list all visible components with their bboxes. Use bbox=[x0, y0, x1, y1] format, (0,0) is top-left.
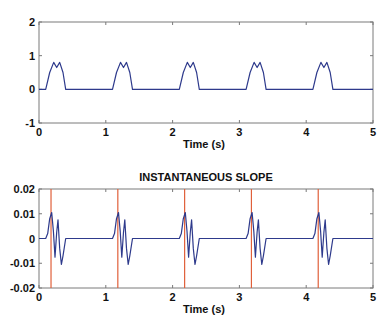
x-tick-label: 2 bbox=[170, 291, 176, 303]
x-tick-label: 5 bbox=[370, 126, 376, 138]
top-signal-plot: 012345-1012Time (s) bbox=[25, 16, 376, 150]
axes-frame bbox=[39, 22, 373, 123]
x-tick-label: 2 bbox=[170, 126, 176, 138]
y-tick-label: 2 bbox=[29, 16, 35, 28]
y-tick-label: 0 bbox=[29, 233, 35, 245]
instantaneous-slope-plot: 012345-0.02-0.0100.010.02Time (s)INSTANT… bbox=[10, 171, 376, 315]
x-tick-label: 3 bbox=[236, 126, 242, 138]
y-tick-label: -0.01 bbox=[10, 257, 35, 269]
y-tick-label: 1 bbox=[29, 50, 35, 62]
x-tick-label: 1 bbox=[103, 126, 109, 138]
y-tick-label: -1 bbox=[25, 117, 35, 129]
x-axis-label: Time (s) bbox=[183, 303, 225, 315]
y-tick-label: 0 bbox=[29, 83, 35, 95]
figure: 012345-1012Time (s) 012345-0.02-0.0100.0… bbox=[0, 0, 392, 328]
x-tick-label: 0 bbox=[36, 291, 42, 303]
x-tick-label: 3 bbox=[236, 291, 242, 303]
x-axis-label: Time (s) bbox=[183, 138, 225, 150]
plot-title: INSTANTANEOUS SLOPE bbox=[139, 171, 272, 183]
x-tick-label: 1 bbox=[103, 291, 109, 303]
y-tick-label: -0.02 bbox=[10, 282, 35, 294]
y-tick-label: 0.01 bbox=[14, 208, 35, 220]
x-tick-label: 5 bbox=[370, 291, 376, 303]
x-tick-label: 0 bbox=[36, 126, 42, 138]
x-tick-label: 4 bbox=[303, 126, 310, 138]
y-tick-label: 0.02 bbox=[14, 183, 35, 195]
x-tick-label: 4 bbox=[303, 291, 310, 303]
